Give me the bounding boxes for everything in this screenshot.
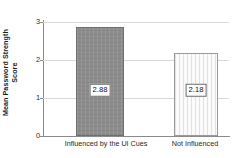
x-axis-line (43, 136, 230, 137)
y-tick-label-1: 1 (26, 94, 40, 102)
bar-chart: Mean Password Strength Score 3 2 1 0 2.8… (0, 0, 237, 158)
y-axis-title: Mean Password Strength Score (2, 14, 18, 132)
y-tick-label-0: 0 (26, 132, 40, 140)
y-axis-title-line-1: Mean Password Strength (1, 30, 9, 117)
bar-influenced-by-the-ui-cues[interactable] (76, 27, 124, 136)
plot-area: 2.88 2.18 (43, 22, 229, 136)
y-axis-title-text: Mean Password Strength Score (1, 30, 18, 117)
y-tick-label-2: 2 (26, 56, 40, 64)
x-category-label-not-influenced: Not Influenced (157, 139, 233, 148)
y-axis-title-line-2: Score (10, 63, 18, 83)
y-tick-label-3: 3 (26, 18, 40, 26)
value-label-influenced: 2.88 (90, 84, 111, 97)
x-category-label-influenced: Influenced by the UI Cues (46, 139, 166, 148)
gridline-3 (43, 22, 229, 23)
value-label-not-influenced: 2.18 (186, 84, 207, 97)
